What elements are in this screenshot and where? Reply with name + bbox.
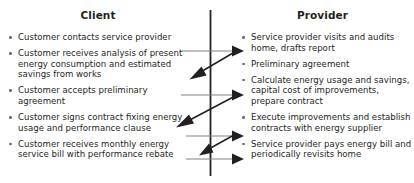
provider-item-list: Service provider visits and audits home,… <box>231 32 414 160</box>
list-item: Service provider pays energy bill and pe… <box>241 139 412 160</box>
list-item: Customer receives analysis of present en… <box>8 48 192 80</box>
client-column: Client Customer contacts service provide… <box>0 0 196 165</box>
list-item: Preliminary agreement <box>241 59 412 70</box>
provider-column-title: Provider <box>231 9 414 21</box>
list-item: Customer contacts service provider <box>8 32 192 43</box>
provider-column: Provider Service provider visits and aud… <box>231 0 414 165</box>
client-item-list: Customer contacts service provider Custo… <box>0 32 196 160</box>
list-item: Customer signs contract fixing energy us… <box>8 112 192 133</box>
list-item: Service provider visits and audits home,… <box>241 32 412 53</box>
list-item: Customer accepts preliminary agreement <box>8 85 192 106</box>
list-item: Calculate energy usage and savings, capi… <box>241 75 412 107</box>
provider-executes-improvements-arrow <box>199 135 234 156</box>
list-item: Customer receives monthly energy service… <box>8 139 192 160</box>
client-column-title: Client <box>0 9 196 21</box>
process-flow-diagram: Client Customer contacts service provide… <box>0 0 414 183</box>
list-item: Execute improvements and establish contr… <box>241 112 412 133</box>
